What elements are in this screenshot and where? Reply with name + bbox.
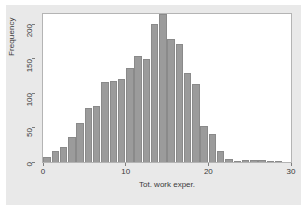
- histogram-bar: [76, 123, 83, 162]
- x-axis-tick: [208, 163, 209, 166]
- x-axis-tick-label: 20: [204, 167, 213, 176]
- plot-panel: [42, 13, 292, 163]
- histogram-bar: [234, 161, 241, 162]
- histogram-bar: [217, 151, 224, 162]
- histogram-bar: [151, 24, 158, 162]
- y-axis-title: Frequency: [7, 17, 16, 56]
- x-axis-tick-label: 30: [287, 167, 296, 176]
- histogram-bar: [225, 159, 232, 162]
- histogram-bar: [52, 151, 59, 162]
- histogram-bar: [118, 79, 125, 162]
- histogram-bar: [134, 56, 141, 162]
- histogram-bar: [242, 160, 249, 162]
- histogram-bar: [110, 81, 117, 162]
- histogram-bar: [101, 82, 108, 162]
- x-axis-tick-label: 0: [41, 167, 45, 176]
- histogram-bar: [258, 160, 265, 162]
- histogram-bar: [200, 126, 207, 162]
- histogram-bar: [250, 160, 257, 162]
- y-axis-tick-label: 200: [26, 24, 34, 37]
- plot-area: [43, 14, 291, 162]
- y-axis-tick-label: 150: [26, 59, 34, 72]
- x-axis-tick-label: 10: [121, 167, 130, 176]
- x-axis: 0102030 Tot. work exper.: [0, 163, 307, 210]
- histogram-bar: [209, 134, 216, 162]
- y-axis-tick-label: 100: [26, 93, 34, 106]
- histogram-bar: [176, 44, 183, 162]
- x-axis-tick: [291, 163, 292, 166]
- histogram-bar: [192, 84, 199, 162]
- histogram-bar: [126, 68, 133, 162]
- histogram-bar: [275, 161, 282, 162]
- x-axis-tick: [43, 163, 44, 166]
- histogram-bar: [60, 147, 67, 162]
- histogram-bar: [267, 161, 274, 162]
- histogram-bar: [159, 14, 166, 162]
- histogram-bar: [184, 73, 191, 162]
- histogram-bar: [43, 157, 50, 163]
- histogram-bar: [85, 108, 92, 162]
- y-axis-tick-label: 50: [26, 128, 34, 137]
- x-axis-tick: [125, 163, 126, 166]
- histogram-bar: [68, 137, 75, 162]
- histogram-figure: Frequency 050100150200 0102030 Tot. work…: [0, 0, 307, 210]
- histogram-bar: [167, 39, 174, 162]
- x-axis-title: Tot. work exper.: [139, 180, 195, 189]
- histogram-bar: [93, 106, 100, 162]
- histogram-bar: [143, 59, 150, 162]
